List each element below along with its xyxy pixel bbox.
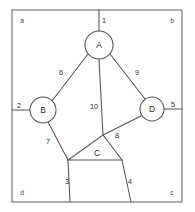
edge-10-line — [99, 59, 103, 135]
edge-5-label: 5 — [171, 100, 175, 109]
corner-label-a: a — [20, 17, 24, 24]
edge-6-line — [52, 54, 88, 101]
edge-8-line — [103, 116, 141, 135]
edge-10-label: 10 — [90, 102, 98, 111]
edge-2-label: 2 — [17, 101, 21, 110]
node-C-label: C — [94, 148, 100, 158]
edge-4-label: 4 — [128, 177, 132, 186]
node-A-label: A — [96, 40, 102, 50]
edge-1-label: 1 — [102, 16, 106, 25]
node-D-label: D — [149, 104, 155, 114]
edge-9-label: 9 — [135, 68, 139, 77]
diagram-canvas: A B D C 1 2 5 6 9 10 7 8 3 4 a b d c — [0, 0, 195, 212]
edge-7-label: 7 — [46, 137, 50, 146]
edge-7-line — [48, 122, 68, 160]
graph-diagram-figure: A B D C 1 2 5 6 9 10 7 8 3 4 a b d c — [0, 0, 195, 212]
edge-8-label: 8 — [115, 131, 119, 140]
edge-9-line — [110, 54, 145, 99]
corner-label-b: b — [170, 17, 174, 24]
node-B-label: B — [40, 105, 46, 115]
corner-label-d: d — [20, 189, 24, 196]
edge-6-label: 6 — [59, 68, 63, 77]
edge-3-label: 3 — [65, 177, 69, 186]
corner-label-c: c — [170, 189, 174, 196]
